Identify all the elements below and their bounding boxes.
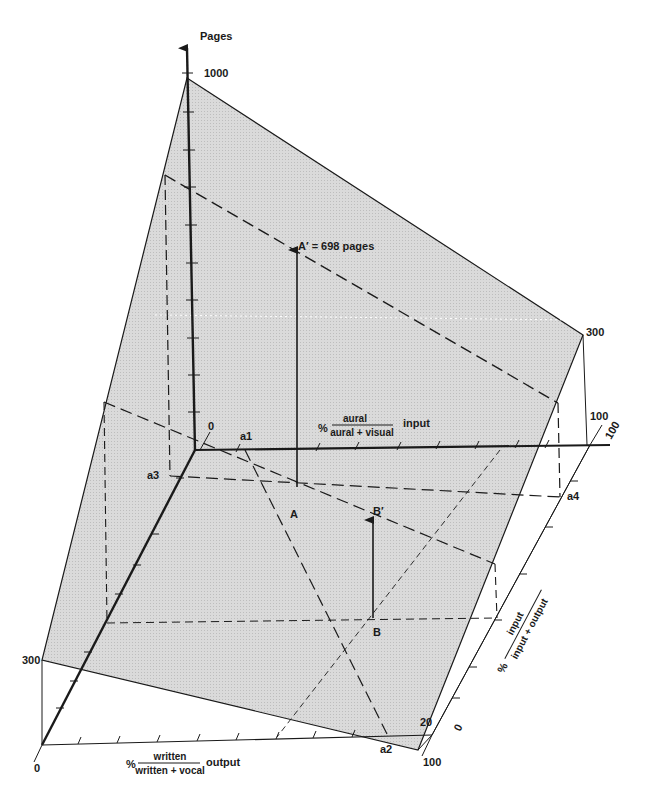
output-axis-numerator: written xyxy=(153,751,187,762)
output-axis-suffix: output xyxy=(206,756,241,768)
input-axis-end-100: 100 xyxy=(602,419,622,441)
ratio-axis-percent: % xyxy=(495,660,510,674)
plane-bottom-20: 20 xyxy=(420,716,432,728)
point-a2-label: a2 xyxy=(380,743,392,755)
input-axis-percent: % xyxy=(318,422,328,434)
output-axis-zero: 0 xyxy=(34,762,40,774)
origin-zero-label: 0 xyxy=(208,420,214,432)
point-a1-label: a1 xyxy=(240,430,252,442)
point-a-prime-label: A′ = 698 pages xyxy=(298,240,374,252)
output-axis-ticks xyxy=(78,730,355,744)
point-B-prime-label: B′ xyxy=(373,505,384,517)
input-axis-suffix: input xyxy=(403,417,430,429)
output-end-tick xyxy=(422,735,432,756)
pages-axis-label: Pages xyxy=(200,30,232,42)
base-right-vertical xyxy=(583,335,587,445)
plane-right-300: 300 xyxy=(586,326,604,338)
point-a3-label: a3 xyxy=(147,469,159,481)
plane-left-300: 300 xyxy=(22,654,40,666)
output-axis-denominator: written + vocal xyxy=(134,765,205,776)
output-axis-end-100: 100 xyxy=(423,756,441,768)
point-B-label: B xyxy=(373,626,381,638)
point-a4-label: a4 xyxy=(567,490,580,502)
ratio-axis-zero: 0 xyxy=(451,722,464,733)
response-plane xyxy=(42,78,583,750)
input-axis-denominator: aural + visual xyxy=(330,427,394,438)
3d-page-estimation-diagram: Pages 1000 0 A′ = 698 pages 300 100 100 … xyxy=(0,0,650,806)
point-A-label: A xyxy=(290,508,298,520)
pages-top-value: 1000 xyxy=(204,67,228,79)
output-origin-tick xyxy=(34,745,42,762)
input-axis-end-tick xyxy=(590,425,602,445)
plane-right-100: 100 xyxy=(590,410,608,422)
input-axis-numerator: aural xyxy=(343,413,367,424)
